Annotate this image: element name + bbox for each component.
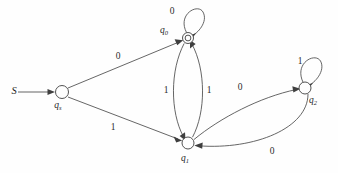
self-loop-q0-label: 0 <box>170 6 175 16</box>
transition-q2-q1-curve <box>199 94 309 146</box>
start-arrow-head <box>48 89 56 95</box>
state-node-q0[interactable] <box>183 33 194 44</box>
transition-qs-q1[interactable] <box>68 97 182 143</box>
fsa-diagram-canvas: S 0 1 1 1 0 <box>0 0 338 173</box>
self-loop-q0-curve <box>184 9 204 35</box>
transition-qs-q0-line <box>68 42 179 88</box>
state-qs-label: qs <box>54 100 62 111</box>
self-loop-q2-label: 1 <box>298 56 303 66</box>
state-node-q2[interactable] <box>299 82 311 94</box>
state-qs-circle <box>56 86 69 99</box>
transition-q2-q1[interactable] <box>194 94 308 149</box>
transition-qs-q1-label: 1 <box>111 122 116 132</box>
transition-q1-q0-curve <box>192 44 203 137</box>
transition-q0-q1[interactable] <box>173 43 185 140</box>
state-q0-label: q0 <box>160 25 169 36</box>
transition-q1-q0[interactable] <box>190 40 203 137</box>
state-q2-circle <box>299 82 311 94</box>
transition-q0-q1-curve <box>173 43 184 136</box>
transition-qs-q1-line <box>68 97 178 139</box>
start-arrow-group <box>18 89 55 95</box>
transition-q1-q0-label: 1 <box>207 85 212 95</box>
transition-qs-q0-arrowhead <box>175 39 184 45</box>
transition-q1-q2-label: 0 <box>238 82 243 92</box>
transition-q2-q1-label: 0 <box>270 146 275 156</box>
self-loop-q2-curve <box>301 58 322 85</box>
transition-q0-q1-label: 1 <box>164 85 169 95</box>
transition-qs-q0[interactable] <box>68 39 183 88</box>
state-node-q1[interactable] <box>182 137 194 149</box>
state-q0-circle-outer <box>183 33 194 44</box>
state-q1-circle <box>182 137 194 149</box>
transition-qs-q1-arrowhead <box>174 136 183 142</box>
fsa-svg: S 0 1 1 1 0 <box>0 0 338 173</box>
state-node-qs[interactable] <box>56 86 69 99</box>
state-q2-label: q2 <box>309 95 318 106</box>
transition-q2-q1-arrowhead <box>194 142 202 148</box>
state-q1-label: q1 <box>181 153 189 164</box>
start-label: S <box>11 85 17 96</box>
transition-q1-q2-curve <box>194 90 297 140</box>
transition-qs-q0-label: 0 <box>116 51 121 61</box>
